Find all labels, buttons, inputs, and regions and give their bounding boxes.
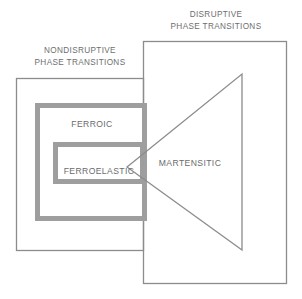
disruptive-label-line1: DISRUPTIVE: [190, 10, 243, 19]
phase-transitions-diagram: NONDISRUPTIVE PHASE TRANSITIONS DISRUPTI…: [0, 0, 302, 299]
nondisruptive-label-line1: NONDISRUPTIVE: [44, 46, 116, 55]
disruptive-label-line2: PHASE TRANSITIONS: [171, 22, 262, 31]
diagram-canvas: NONDISRUPTIVE PHASE TRANSITIONS DISRUPTI…: [0, 0, 302, 299]
ferroic-label: FERROIC: [71, 119, 112, 129]
ferroelastic-label: FERROELASTIC: [64, 166, 135, 176]
martensitic-label: MARTENSITIC: [159, 158, 222, 168]
nondisruptive-label-line2: PHASE TRANSITIONS: [35, 58, 126, 67]
